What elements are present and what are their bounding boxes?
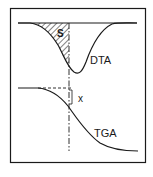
diagram-canvas: S DTA x TGA (0, 0, 153, 177)
thermal-analysis-figure: S DTA x TGA (0, 0, 153, 177)
mass-loss-label: x (78, 93, 83, 104)
tga-label: TGA (94, 127, 117, 139)
area-label: S (57, 28, 64, 39)
plot-frame (11, 9, 146, 163)
dta-label: DTA (90, 54, 112, 66)
dta-curve (18, 23, 137, 73)
